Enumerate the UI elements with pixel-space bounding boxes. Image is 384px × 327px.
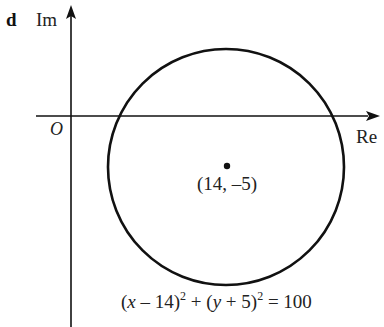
- eq-part5: = 100: [263, 291, 312, 312]
- eq-part2: – 14): [136, 291, 180, 313]
- eq-part3: + (: [186, 291, 213, 313]
- center-point: [224, 163, 230, 169]
- argand-diagram: d Im Re O (14, –5) (x – 14)2 + (y + 5)2 …: [0, 0, 384, 327]
- part-label: d: [6, 9, 17, 30]
- imaginary-axis-label: Im: [36, 9, 57, 30]
- circle-equation: (x – 14)2 + (y + 5)2 = 100: [121, 289, 312, 313]
- eq-part4: + 5): [221, 291, 257, 313]
- origin-label: O: [50, 119, 63, 139]
- real-axis-label: Re: [356, 126, 377, 147]
- eq-y: y: [211, 291, 222, 312]
- center-label: (14, –5): [197, 173, 257, 195]
- real-axis-arrow-icon: [366, 111, 380, 121]
